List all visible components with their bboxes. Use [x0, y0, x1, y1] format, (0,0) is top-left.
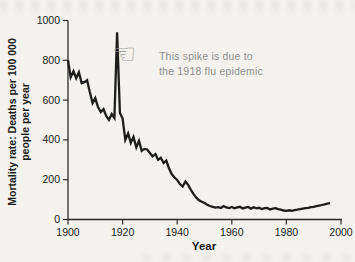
spike-annotation-line2: the 1918 flu epidemic	[159, 64, 263, 79]
tick-labels: 0200400600800100019001920194019601980200…	[37, 14, 353, 238]
x-axis-label: Year	[192, 240, 217, 252]
spike-annotation: This spike is due to the 1918 flu epidem…	[159, 49, 263, 79]
y-tick-label: 600	[42, 94, 60, 106]
x-tick-label: 2000	[329, 226, 353, 238]
y-axis-label-line2: people per year	[19, 83, 31, 161]
mortality-rate-figure: 0200400600800100019001920194019601980200…	[0, 0, 355, 262]
spike-annotation-line1: This spike is due to	[159, 49, 263, 64]
y-tick-label: 1000	[37, 14, 61, 26]
x-tick-label: 1940	[166, 226, 190, 238]
x-tick-label: 1920	[111, 226, 135, 238]
y-tick-label: 200	[42, 173, 60, 185]
x-tick-label: 1980	[275, 226, 299, 238]
y-tick-label: 800	[42, 54, 60, 66]
pointing-hand-icon: ☜	[112, 40, 136, 67]
line-chart: 0200400600800100019001920194019601980200…	[0, 0, 355, 262]
x-tick-label: 1900	[56, 226, 80, 238]
x-tick-label: 1960	[220, 226, 244, 238]
y-axis-label-line1: Mortality rate: Deaths per 100 000	[6, 38, 18, 206]
y-tick-label: 400	[42, 133, 60, 145]
y-tick-label: 0	[54, 213, 60, 225]
